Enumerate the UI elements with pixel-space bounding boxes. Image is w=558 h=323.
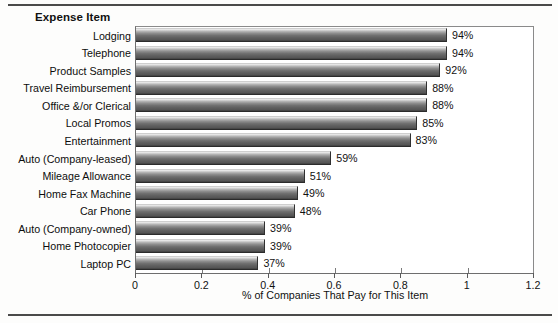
category-label: Home Fax Machine (0, 188, 131, 200)
category-axis: LodgingTelephoneProduct SamplesTravel Re… (0, 26, 131, 274)
bar-value-label: 85% (422, 117, 443, 129)
category-label: Lodging (0, 30, 131, 42)
bar-row: 88% (136, 80, 533, 98)
bar (136, 151, 331, 165)
bar-value-label: 94% (452, 47, 473, 59)
bar-value-label: 48% (300, 205, 321, 217)
bar-value-label: 59% (336, 152, 357, 164)
bar (136, 46, 447, 60)
category-label: Home Photocopier (0, 240, 131, 252)
x-axis-tick (135, 273, 136, 278)
bar-value-label: 51% (310, 170, 331, 182)
x-axis-title: % of Companies That Pay for This Item (135, 289, 535, 301)
bar (136, 169, 305, 183)
category-label: Local Promos (0, 117, 131, 129)
bar-row: 83% (136, 132, 533, 150)
x-axis-tick (334, 273, 335, 278)
bar (136, 186, 298, 200)
category-label: Auto (Company-owned) (0, 223, 131, 235)
category-label: Auto (Company-leased) (0, 153, 131, 165)
x-axis-tick (201, 273, 202, 278)
category-label: Car Phone (0, 205, 131, 217)
category-label: Product Samples (0, 65, 131, 77)
bar-value-label: 37% (263, 257, 284, 269)
bar-row: 49% (136, 185, 533, 203)
bar (136, 256, 258, 270)
bar-value-label: 88% (432, 99, 453, 111)
bar-row: 37% (136, 255, 533, 273)
bar (136, 81, 427, 95)
x-axis-tick (400, 273, 401, 278)
category-label: Laptop PC (0, 258, 131, 270)
bar-row: 85% (136, 115, 533, 133)
bar-value-label: 39% (270, 240, 291, 252)
bar-row: 48% (136, 203, 533, 221)
category-label: Mileage Allowance (0, 170, 131, 182)
bar-row: 92% (136, 62, 533, 80)
page-title: Expense Item (35, 11, 110, 23)
bar (136, 204, 295, 218)
bar-row: 51% (136, 168, 533, 186)
x-axis-tick (533, 273, 534, 278)
bars-layer: 94%94%92%88%88%85%83%59%51%49%48%39%39%3… (136, 27, 533, 273)
bar-row: 94% (136, 45, 533, 63)
bar-value-label: 39% (270, 222, 291, 234)
page-rule-bottom (8, 314, 552, 316)
bar-value-label: 88% (432, 82, 453, 94)
bar-value-label: 49% (303, 187, 324, 199)
bar-value-label: 92% (445, 64, 466, 76)
category-label: Travel Reimbursement (0, 82, 131, 94)
bar (136, 63, 440, 77)
chart-page: Expense Item LodgingTelephoneProduct Sam… (0, 0, 558, 323)
bar (136, 221, 265, 235)
bar-value-label: 94% (452, 29, 473, 41)
bar (136, 116, 417, 130)
bar (136, 133, 411, 147)
bar (136, 239, 265, 253)
bar-value-label: 83% (416, 134, 437, 146)
bar (136, 28, 447, 42)
category-label: Entertainment (0, 135, 131, 147)
bar-row: 39% (136, 238, 533, 256)
bar-row: 59% (136, 150, 533, 168)
x-axis-tick (467, 273, 468, 278)
bar-row: 88% (136, 97, 533, 115)
category-label: Office &/or Clerical (0, 100, 131, 112)
bar-row: 39% (136, 220, 533, 238)
x-axis-tick (268, 273, 269, 278)
page-rule-top (8, 4, 552, 6)
bar (136, 98, 427, 112)
category-label: Telephone (0, 47, 131, 59)
bar-row: 94% (136, 27, 533, 45)
